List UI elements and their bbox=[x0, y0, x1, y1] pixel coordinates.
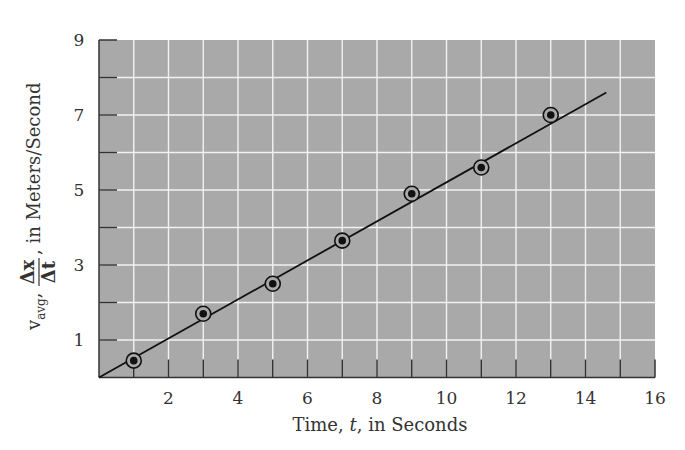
svg-text:Δt: Δt bbox=[38, 260, 59, 283]
x-tick-label: 4 bbox=[233, 388, 244, 408]
data-point-dot bbox=[408, 190, 416, 198]
y-tick-label: 5 bbox=[74, 180, 85, 200]
y-axis-title: vavg, Δx Δt , in Meters/Second bbox=[17, 83, 59, 331]
data-point-dot bbox=[130, 357, 138, 365]
x-tick-label: 8 bbox=[372, 388, 383, 408]
y-tick-label: 1 bbox=[74, 330, 85, 350]
svg-text:, in Meters/Second: , in Meters/Second bbox=[23, 83, 44, 255]
x-axis-title: Time, t, in Seconds bbox=[293, 414, 468, 435]
y-tick-label: 3 bbox=[74, 255, 85, 275]
svg-text:vavg,: vavg, bbox=[23, 292, 48, 331]
x-tick-label: 2 bbox=[163, 388, 174, 408]
x-tick-label: 16 bbox=[644, 388, 666, 408]
data-point-dot bbox=[477, 164, 485, 172]
y-tick-label: 7 bbox=[74, 105, 85, 125]
data-point-dot bbox=[199, 310, 207, 318]
data-point-dot bbox=[547, 111, 555, 119]
data-point-dot bbox=[338, 237, 346, 245]
x-tick-label: 6 bbox=[302, 388, 313, 408]
x-tick-label: 14 bbox=[575, 388, 597, 408]
svg-text:Δx: Δx bbox=[17, 259, 38, 284]
y-tick-label: 9 bbox=[74, 30, 85, 50]
chart: 13579246810121416 Time, t, in Seconds va… bbox=[0, 0, 685, 450]
x-tick-label: 10 bbox=[436, 388, 458, 408]
x-tick-label: 12 bbox=[505, 388, 527, 408]
data-point-dot bbox=[269, 280, 277, 288]
